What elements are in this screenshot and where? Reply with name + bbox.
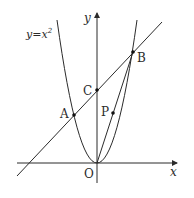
point-a-label: A <box>59 107 69 121</box>
origin-label: O <box>84 167 94 181</box>
point-p <box>111 111 115 115</box>
point-c <box>95 88 99 92</box>
point-p-label: P <box>101 105 109 119</box>
point-b-label: B <box>137 51 146 65</box>
x-axis-label: x <box>170 165 177 179</box>
diagram-svg: y=x2 y x O A B C P <box>0 0 194 198</box>
point-b <box>131 50 135 54</box>
point-a <box>72 113 76 117</box>
point-c-label: C <box>83 84 92 98</box>
line-ab <box>17 22 162 176</box>
diagram-canvas: y=x2 y x O A B C P <box>0 0 194 198</box>
y-axis-label: y <box>83 11 91 25</box>
curve-label: y=x2 <box>25 27 53 41</box>
